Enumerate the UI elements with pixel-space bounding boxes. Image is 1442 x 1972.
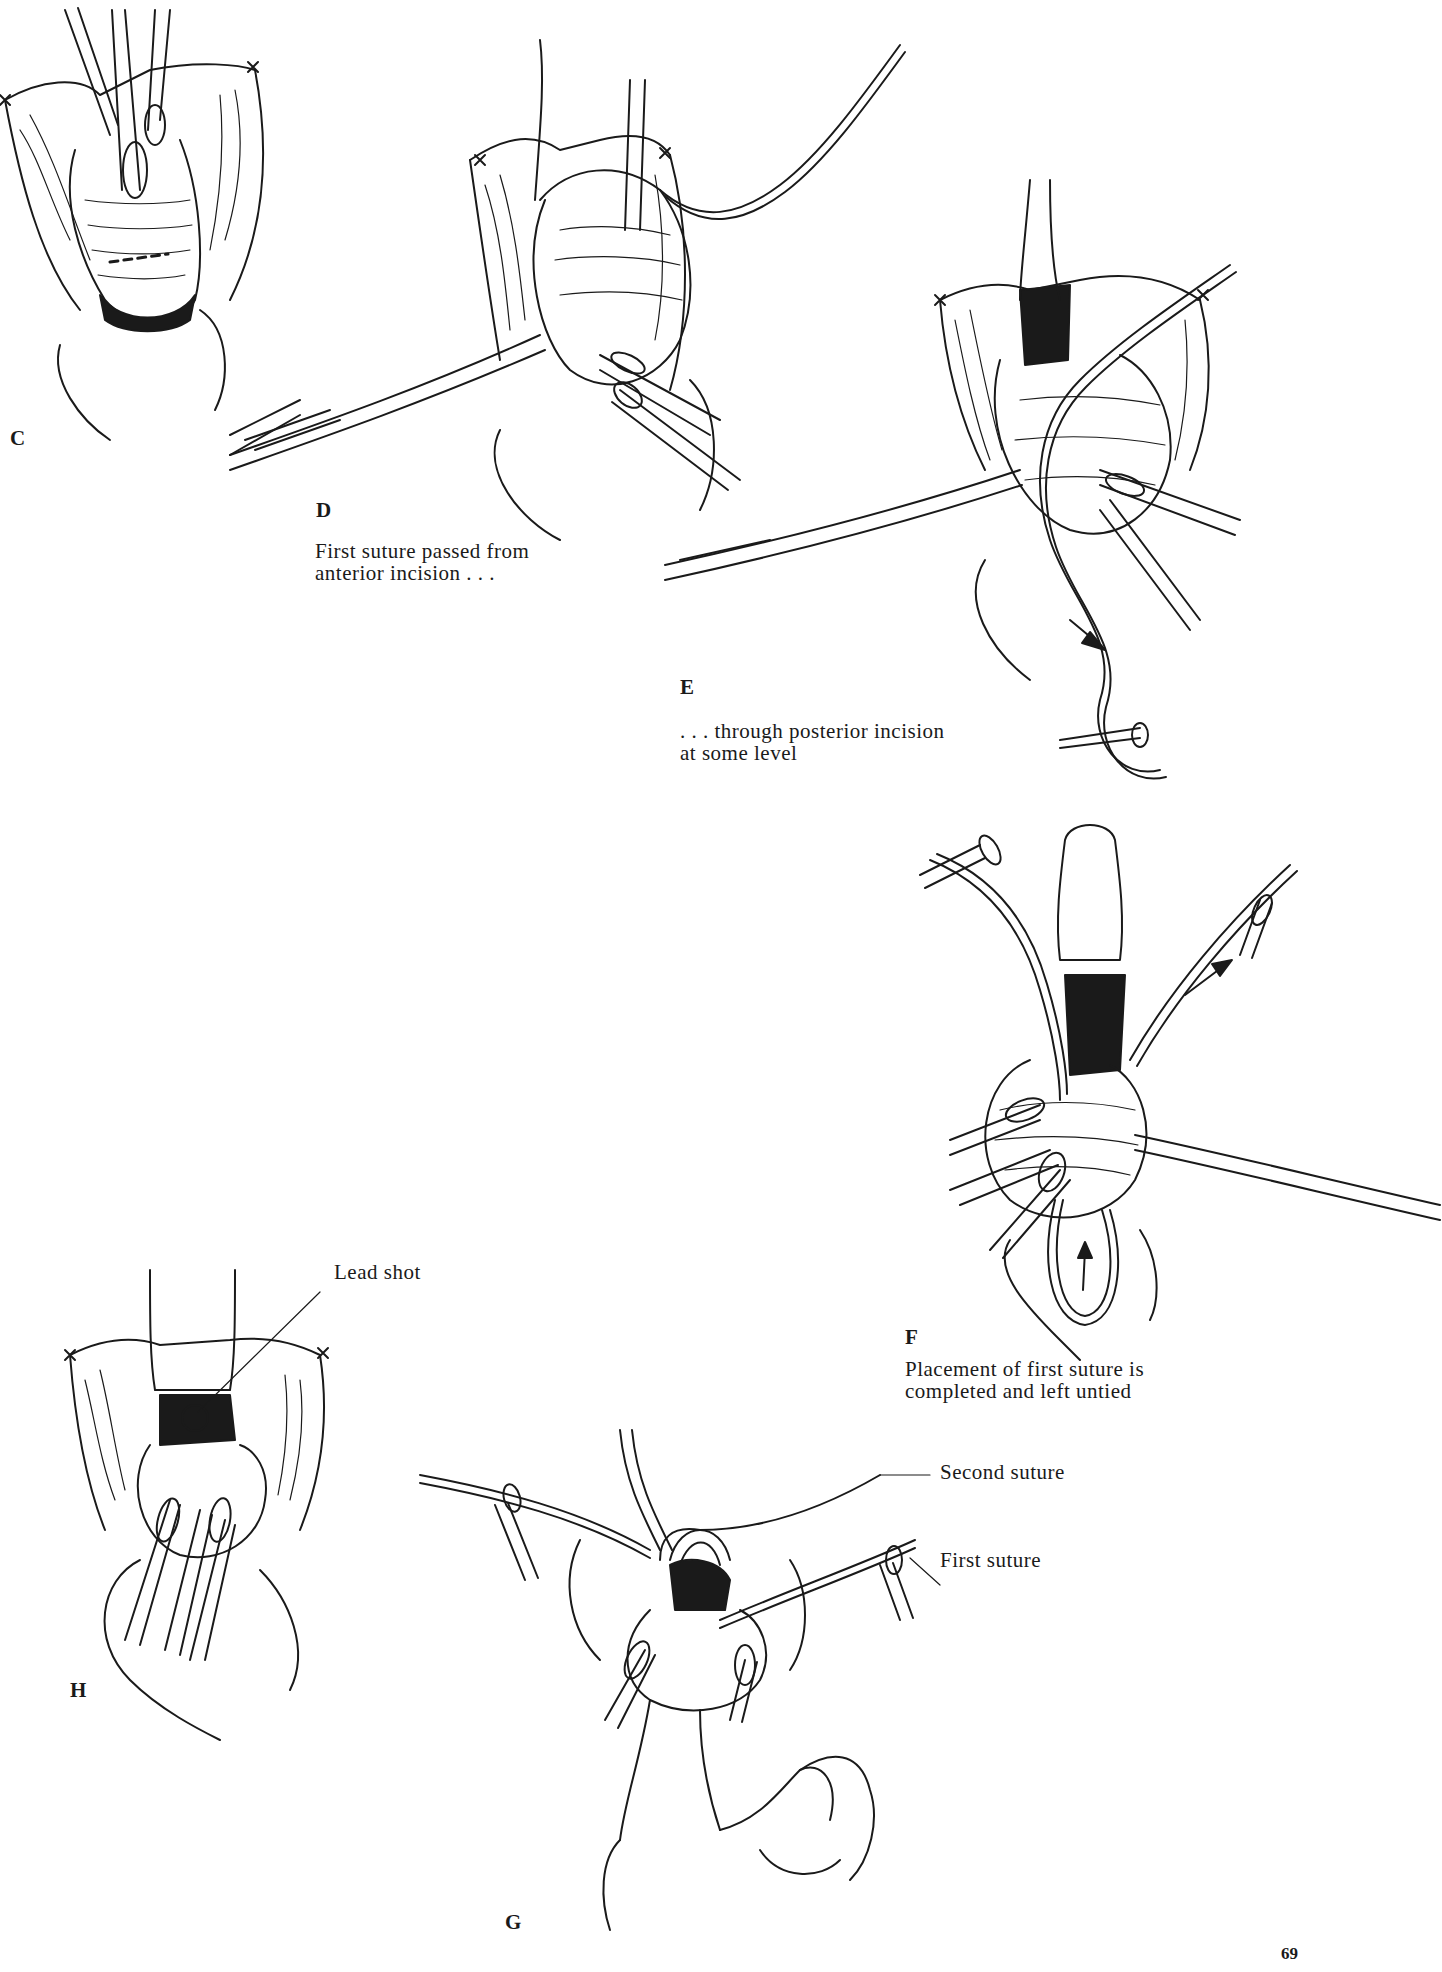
callout-first-suture: First suture	[940, 1550, 1041, 1571]
page-number: 69	[1281, 1944, 1298, 1964]
panel-caption-e: . . . through posterior incision at some…	[680, 720, 944, 764]
panel-label-e: E	[680, 677, 694, 698]
panel-d-drawing	[230, 40, 905, 540]
panel-label-f: F	[905, 1327, 918, 1348]
panel-label-c: C	[10, 428, 25, 449]
panel-g-drawing	[420, 1430, 940, 1930]
panel-caption-d: First suture passed from anterior incisi…	[315, 540, 529, 584]
illustration-canvas	[0, 0, 1442, 1972]
panel-label-d: D	[316, 500, 331, 521]
panel-f-drawing	[920, 825, 1440, 1360]
panel-e-drawing	[665, 180, 1240, 779]
panel-h-drawing	[65, 1270, 328, 1740]
callout-second-suture: Second suture	[940, 1462, 1065, 1483]
panel-label-g: G	[505, 1912, 521, 1933]
panel-c-drawing	[0, 8, 300, 455]
callout-lead-shot: Lead shot	[334, 1262, 421, 1283]
panel-caption-f: Placement of first suture is completed a…	[905, 1358, 1144, 1402]
panel-label-h: H	[70, 1680, 86, 1701]
